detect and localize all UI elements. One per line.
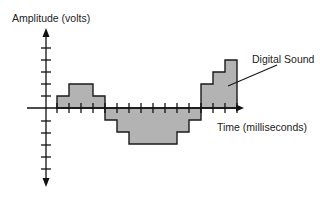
- y-axis-down-arrow-icon: [43, 178, 50, 187]
- y-axis-label: Amplitude (volts): [12, 13, 90, 24]
- digital-sound-label: Digital Sound: [252, 54, 314, 65]
- axes: [27, 28, 244, 187]
- digital-sound-diagram: [0, 0, 320, 198]
- x-axis-label: Time (milliseconds): [217, 122, 307, 133]
- digital-waveform: [57, 60, 237, 144]
- waveform-fill: [57, 60, 237, 144]
- y-axis-up-arrow-icon: [43, 28, 50, 37]
